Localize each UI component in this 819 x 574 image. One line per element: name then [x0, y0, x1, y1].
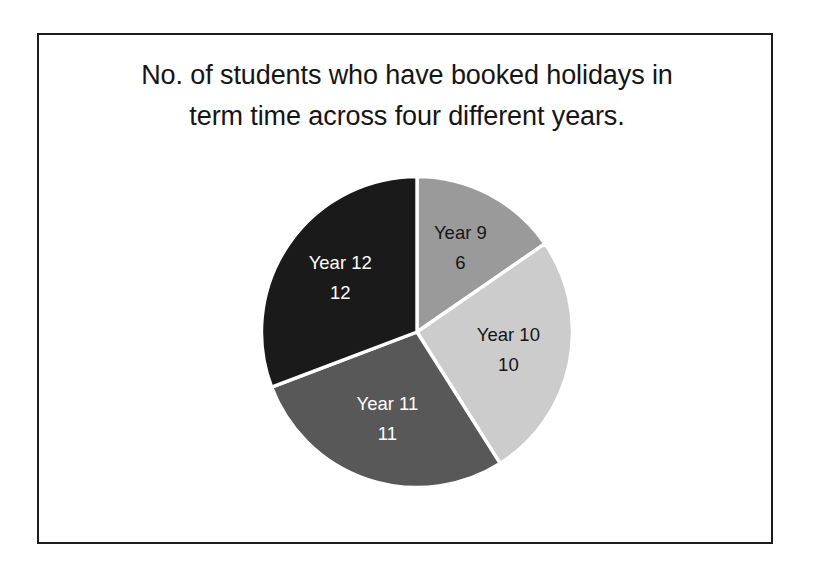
- pie-slice-value-year-10: 10: [498, 354, 519, 375]
- pie-svg: Year 96Year 1010Year 1111Year 1212: [257, 172, 577, 492]
- pie-slice-value-year-9: 6: [455, 252, 465, 273]
- pie-slice-value-year-11: 11: [378, 423, 397, 444]
- pie-slice-value-year-12: 12: [330, 282, 351, 303]
- pie-slice-label-year-11: Year 11: [357, 393, 419, 414]
- chart-figure: No. of students who have booked holidays…: [0, 0, 819, 574]
- pie-slice-label-year-12: Year 12: [309, 252, 372, 273]
- pie-slice-label-year-10: Year 10: [477, 324, 540, 345]
- chart-frame: No. of students who have booked holidays…: [37, 33, 773, 544]
- pie-slice-label-year-9: Year 9: [434, 222, 487, 243]
- pie-chart: Year 96Year 1010Year 1111Year 1212: [39, 35, 775, 546]
